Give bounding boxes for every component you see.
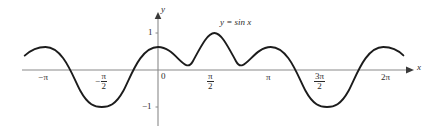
y-axis-label: y [161,5,165,14]
x-tick-label-two-pi: 2π [381,73,390,82]
fraction-denominator: 2 [101,82,108,91]
x-tick-label-zero: 0 [161,72,166,81]
plot-canvas [0,0,429,134]
x-axis-label: x [417,63,421,72]
fraction: π 2 [207,72,214,91]
y-tick-label-negative-one: −1 [142,102,152,111]
x-tick-label-three-pi-over-two: 3π 2 [314,72,325,91]
fraction: π 2 [101,72,108,91]
pi-symbol: π [44,72,49,82]
y-tick-label-one: 1 [148,28,153,37]
x-tick-label-negative-pi-over-two: − π 2 [95,72,107,91]
fraction-denominator: 2 [207,82,214,91]
fraction-denominator: 2 [314,82,325,91]
x-axis-arrowhead [406,67,414,74]
x-tick-label-negative-pi: −π [38,73,48,82]
x-tick-label-pi: π [266,73,271,82]
sine-function-graph-figure: y x y = sin x 1 −1 0 −π − π 2 π 2 π 3π 2… [0,0,429,134]
curve-equation-label: y = sin x [220,18,251,27]
x-tick-label-pi-over-two: π 2 [207,72,214,91]
fraction: 3π 2 [314,72,325,91]
